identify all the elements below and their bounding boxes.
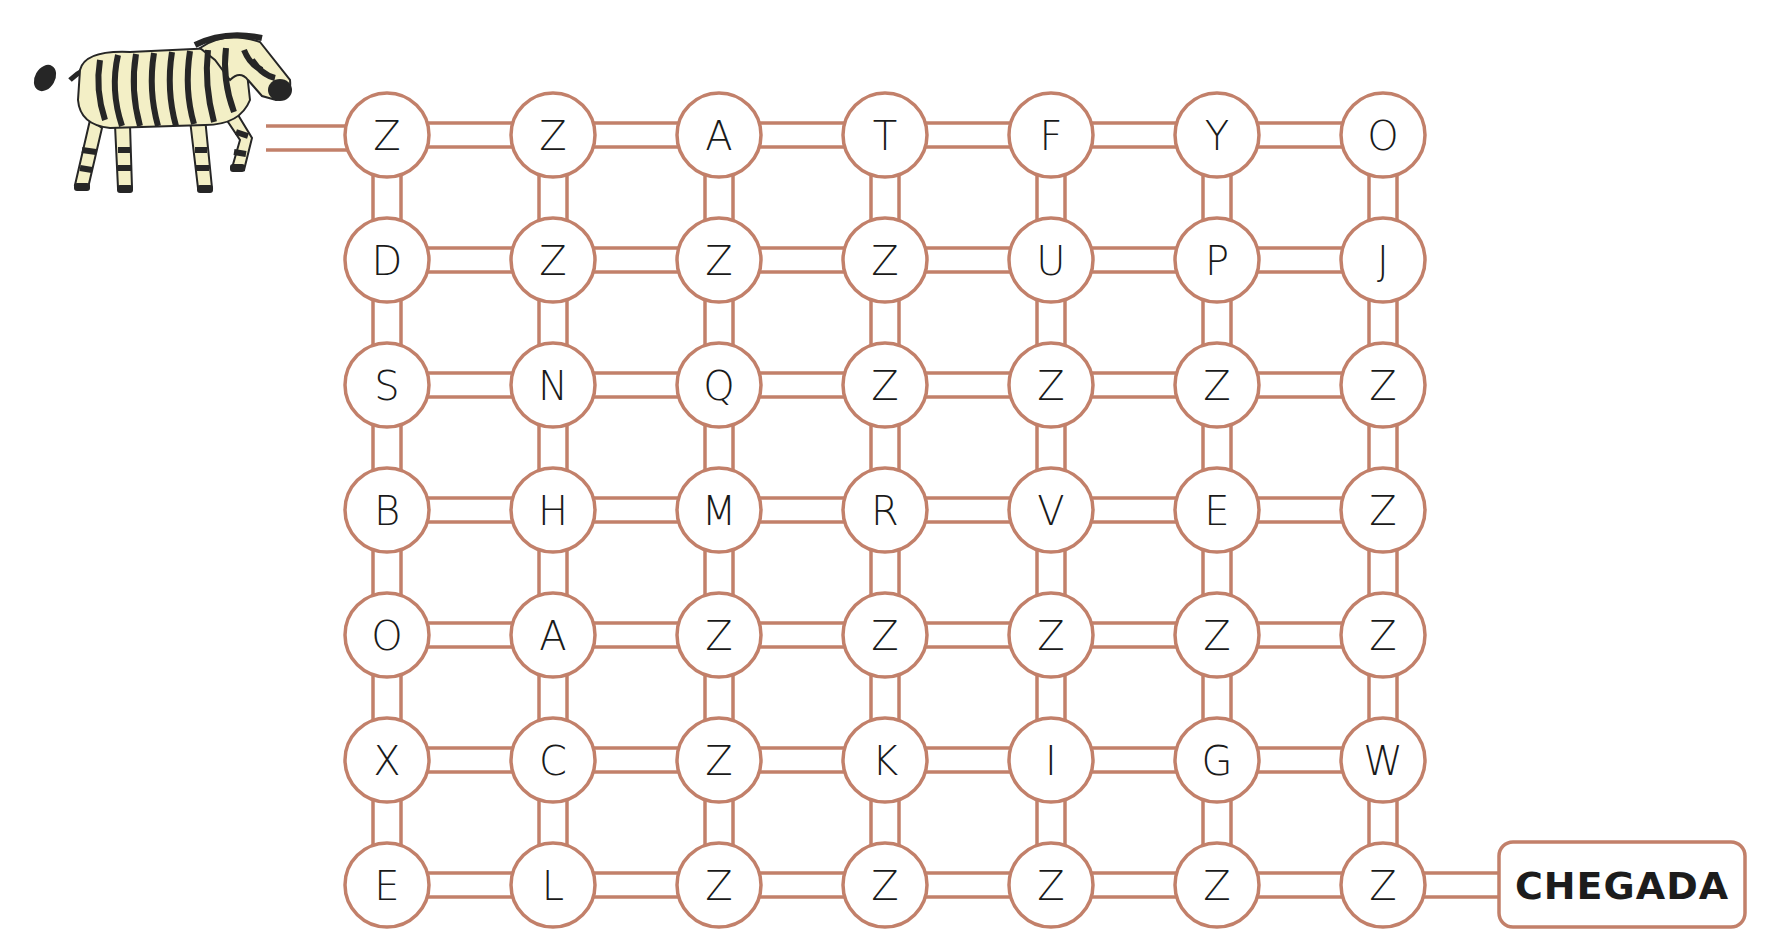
node-letter: W xyxy=(1363,738,1403,784)
node-letter: J xyxy=(1377,238,1389,284)
maze-node[interactable]: A xyxy=(677,93,761,177)
node-letter: Z xyxy=(1037,613,1064,659)
maze-node[interactable]: Z xyxy=(1341,843,1425,927)
maze-node[interactable]: Z xyxy=(1009,593,1093,677)
maze-node[interactable]: R xyxy=(843,468,927,552)
node-letter: Z xyxy=(1369,363,1396,409)
node-letter: Z xyxy=(705,738,732,784)
node-letter: E xyxy=(1204,488,1229,534)
maze-node[interactable]: U xyxy=(1009,218,1093,302)
node-letter: N xyxy=(538,363,568,409)
maze-node[interactable]: X xyxy=(345,718,429,802)
maze-node[interactable]: P xyxy=(1175,218,1259,302)
node-letter: F xyxy=(1039,113,1062,159)
goal-label: CHEGADA xyxy=(1515,864,1729,908)
maze-node[interactable]: Z xyxy=(677,218,761,302)
maze-node[interactable]: Z xyxy=(511,218,595,302)
maze-node[interactable]: E xyxy=(1175,468,1259,552)
maze-node[interactable]: Z xyxy=(843,843,927,927)
maze-node[interactable]: Z xyxy=(1175,843,1259,927)
node-letter: Z xyxy=(705,613,732,659)
maze-node[interactable]: Z xyxy=(843,343,927,427)
maze-node[interactable]: B xyxy=(345,468,429,552)
node-letter: U xyxy=(1036,238,1065,284)
maze-node[interactable]: Z xyxy=(1175,343,1259,427)
node-letter: Z xyxy=(1369,488,1396,534)
node-letter: Q xyxy=(703,363,734,409)
node-letter: H xyxy=(538,488,568,534)
maze-node[interactable]: Z xyxy=(843,593,927,677)
maze-node[interactable]: G xyxy=(1175,718,1259,802)
node-letter: Z xyxy=(705,863,732,909)
node-letter: Z xyxy=(539,113,566,159)
maze-node[interactable]: O xyxy=(345,593,429,677)
node-letter: Z xyxy=(1369,863,1396,909)
maze-node[interactable]: Z xyxy=(677,593,761,677)
node-letter: D xyxy=(372,238,403,284)
maze-node[interactable]: Z xyxy=(345,93,429,177)
node-letter: G xyxy=(1202,738,1233,784)
node-letter: K xyxy=(872,738,898,784)
maze-node[interactable]: H xyxy=(511,468,595,552)
maze-node[interactable]: E xyxy=(345,843,429,927)
node-letter: C xyxy=(539,738,567,784)
maze-node[interactable]: A xyxy=(511,593,595,677)
maze-node[interactable]: L xyxy=(511,843,595,927)
node-letter: Y xyxy=(1205,113,1229,159)
node-letter: A xyxy=(705,113,732,159)
node-letter: Z xyxy=(1203,863,1230,909)
node-letter: L xyxy=(542,863,564,909)
node-letter: Z xyxy=(1037,363,1064,409)
maze-node[interactable]: Z xyxy=(843,218,927,302)
goal-box[interactable]: CHEGADA xyxy=(1499,842,1745,927)
maze-node[interactable]: F xyxy=(1009,93,1093,177)
node-letter: Z xyxy=(871,238,898,284)
maze-nodes: ZZATFYODZZZUPJSNQZZZZBHMRVEZOAZZZZZXCZKI… xyxy=(345,93,1425,927)
maze-node[interactable]: Z xyxy=(511,93,595,177)
node-letter: A xyxy=(539,613,566,659)
maze-node[interactable]: Z xyxy=(1175,593,1259,677)
node-letter: Z xyxy=(1203,363,1230,409)
maze-node[interactable]: M xyxy=(677,468,761,552)
maze-node[interactable]: Z xyxy=(1341,343,1425,427)
maze-node[interactable]: Z xyxy=(1341,593,1425,677)
node-letter: O xyxy=(371,613,402,659)
maze-node[interactable]: C xyxy=(511,718,595,802)
node-letter: S xyxy=(374,363,399,409)
node-letter: B xyxy=(374,488,400,534)
maze-node[interactable]: O xyxy=(1341,93,1425,177)
node-letter: Z xyxy=(871,863,898,909)
node-letter: Z xyxy=(539,238,566,284)
maze-node[interactable]: V xyxy=(1009,468,1093,552)
maze-node[interactable]: N xyxy=(511,343,595,427)
maze-node[interactable]: K xyxy=(843,718,927,802)
node-letter: R xyxy=(871,488,899,534)
node-letter: V xyxy=(1037,488,1064,534)
maze-node[interactable]: Z xyxy=(677,718,761,802)
maze-node[interactable]: Z xyxy=(1009,843,1093,927)
node-letter: Z xyxy=(1037,863,1064,909)
node-letter: E xyxy=(374,863,399,909)
node-letter: I xyxy=(1045,738,1057,784)
maze-node[interactable]: Q xyxy=(677,343,761,427)
node-letter: Z xyxy=(1369,613,1396,659)
maze-node[interactable]: J xyxy=(1341,218,1425,302)
maze-node[interactable]: Z xyxy=(1341,468,1425,552)
maze-board: ZZATFYODZZZUPJSNQZZZZBHMRVEZOAZZZZZXCZKI… xyxy=(0,0,1768,951)
maze-node[interactable]: D xyxy=(345,218,429,302)
node-letter: Z xyxy=(705,238,732,284)
node-letter: T xyxy=(873,113,897,159)
maze-node[interactable]: T xyxy=(843,93,927,177)
maze-node[interactable]: Z xyxy=(677,843,761,927)
node-letter: Z xyxy=(871,363,898,409)
maze-node[interactable]: Y xyxy=(1175,93,1259,177)
node-letter: Z xyxy=(373,113,400,159)
maze-node[interactable]: Z xyxy=(1009,343,1093,427)
maze-node[interactable]: S xyxy=(345,343,429,427)
node-letter: P xyxy=(1205,238,1229,284)
node-letter: Z xyxy=(1203,613,1230,659)
maze-node[interactable]: W xyxy=(1341,718,1425,802)
node-letter: O xyxy=(1367,113,1398,159)
maze-node[interactable]: I xyxy=(1009,718,1093,802)
node-letter: X xyxy=(373,738,400,784)
